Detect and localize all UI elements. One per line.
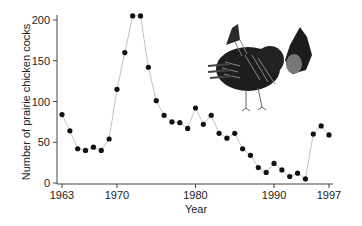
prairie-chicken-illustration	[208, 24, 312, 111]
x-axis-title: Year	[185, 203, 208, 215]
y-tick-label: 200	[32, 14, 50, 26]
axes	[57, 15, 333, 184]
data-point	[264, 170, 269, 175]
data-point	[114, 87, 119, 92]
data-point	[232, 131, 237, 136]
data-point	[303, 176, 308, 181]
data-point	[311, 132, 316, 137]
x-tick-label: 1997	[317, 189, 341, 201]
data-point	[161, 113, 166, 118]
data-point	[75, 146, 80, 151]
x-tick-label: 1963	[50, 189, 74, 201]
prairie-chicken-chart: 050100150200 19631970198019901997 Number…	[0, 0, 362, 226]
data-points	[59, 13, 331, 181]
y-tick-label: 50	[38, 136, 50, 148]
data-point	[169, 119, 174, 124]
y-tick-label: 150	[32, 55, 50, 67]
data-point	[201, 122, 206, 127]
data-point	[240, 146, 245, 151]
y-axis-ticks: 050100150200	[32, 14, 57, 189]
data-point	[177, 120, 182, 125]
y-tick-label: 100	[32, 96, 50, 108]
data-point	[99, 148, 104, 153]
data-point	[224, 136, 229, 141]
data-point	[271, 161, 276, 166]
data-point	[216, 131, 221, 136]
data-point	[154, 98, 159, 103]
data-point	[319, 123, 324, 128]
data-point	[67, 128, 72, 133]
data-point	[209, 113, 214, 118]
data-line	[62, 16, 329, 179]
data-point	[287, 174, 292, 179]
data-point	[59, 112, 64, 117]
x-axis-ticks: 19631970198019901997	[50, 184, 341, 201]
x-tick-label: 1980	[183, 189, 207, 201]
data-point	[91, 145, 96, 150]
x-tick-label: 1990	[262, 189, 286, 201]
data-point	[256, 165, 261, 170]
data-point	[248, 153, 253, 158]
data-point	[138, 13, 143, 18]
data-point	[130, 13, 135, 18]
y-tick-label: 0	[44, 177, 50, 189]
x-tick-label: 1970	[105, 189, 129, 201]
data-point	[279, 167, 284, 172]
data-point	[107, 136, 112, 141]
data-point	[326, 132, 331, 137]
y-axis-title: Number of prairie chicken cocks	[20, 23, 32, 180]
data-point	[83, 148, 88, 153]
data-point	[185, 126, 190, 131]
data-point	[193, 105, 198, 110]
data-point	[146, 65, 151, 70]
data-point	[295, 171, 300, 176]
data-point	[122, 50, 127, 55]
